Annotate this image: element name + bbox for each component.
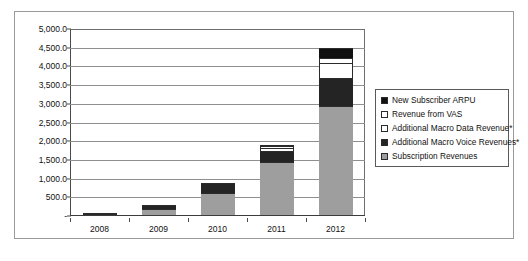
- x-tick-label: 2012: [326, 224, 345, 234]
- bar-segment: [260, 162, 294, 216]
- x-tick-label: 2010: [208, 224, 227, 234]
- legend-swatch-filled-icon: [381, 97, 388, 104]
- legend-item: New Subscriber ARPU: [381, 95, 503, 105]
- y-tick-label: 500.0: [15, 192, 67, 202]
- y-tick-label: 4,500.0: [15, 43, 67, 53]
- y-tick-label: 2,500.0: [15, 118, 67, 128]
- legend-item: Additional Macro Voice Revenues*: [381, 137, 503, 147]
- x-tick-label: 2008: [90, 224, 109, 234]
- bar-segment: [319, 48, 353, 58]
- legend-item: Additional Macro Data Revenue*: [381, 123, 503, 133]
- x-tick-mark: [365, 218, 366, 222]
- legend-swatch-open-icon: [381, 125, 388, 132]
- y-tick-label: 1,000.0: [15, 174, 67, 184]
- y-tick-label: 1,500.0: [15, 155, 67, 165]
- x-axis-line: [70, 215, 365, 216]
- y-tick-label: 2,000.0: [15, 136, 67, 146]
- x-tick-mark: [129, 218, 130, 222]
- legend-swatch-filled-icon: [381, 139, 388, 146]
- legend-item-label: Additional Macro Data Revenue*: [392, 123, 512, 133]
- legend-item-label: Revenue from VAS: [392, 109, 462, 119]
- legend-swatch-open-icon: [381, 111, 388, 118]
- legend-item: Revenue from VAS: [381, 109, 503, 119]
- legend-item-label: Subscription Revenues: [392, 151, 477, 161]
- bar-segment: [319, 78, 353, 106]
- legend-swatch-gray-icon: [381, 153, 388, 160]
- plot-area: [70, 29, 365, 216]
- x-tick-label: 2009: [149, 224, 168, 234]
- bar-segment: [260, 151, 294, 161]
- bar-column: [201, 183, 235, 216]
- bar-column: [319, 48, 353, 216]
- bar-series-group: [70, 29, 365, 216]
- y-axis: 5,000.04,500.04,000.03,500.03,000.02,500…: [15, 29, 67, 216]
- x-tick-mark: [70, 218, 71, 222]
- x-tick-mark: [247, 218, 248, 222]
- y-tick-label: 3,000.0: [15, 99, 67, 109]
- x-tick-mark: [188, 218, 189, 222]
- x-tick-label: 2011: [267, 224, 285, 234]
- y-tick-label: 3,500.0: [15, 80, 67, 90]
- x-tick-mark: [306, 218, 307, 222]
- y-tick-label: -: [15, 211, 67, 221]
- chart-figure: 5,000.04,500.04,000.03,500.03,000.02,500…: [14, 11, 514, 239]
- bar-segment: [319, 63, 353, 77]
- legend-item-label: New Subscriber ARPU: [392, 95, 475, 105]
- legend-item-label: Additional Macro Voice Revenues*: [392, 137, 519, 147]
- y-tick-label: 4,000.0: [15, 61, 67, 71]
- bar-segment: [201, 193, 235, 216]
- legend-item: Subscription Revenues: [381, 151, 503, 161]
- y-tick-label: 5,000.0: [15, 24, 67, 34]
- bar-segment: [319, 106, 353, 216]
- bar-column: [260, 145, 294, 216]
- chart-legend: New Subscriber ARPURevenue from VASAddit…: [375, 89, 509, 167]
- bar-segment: [201, 183, 235, 193]
- x-axis: 20082009201020112012: [70, 218, 365, 238]
